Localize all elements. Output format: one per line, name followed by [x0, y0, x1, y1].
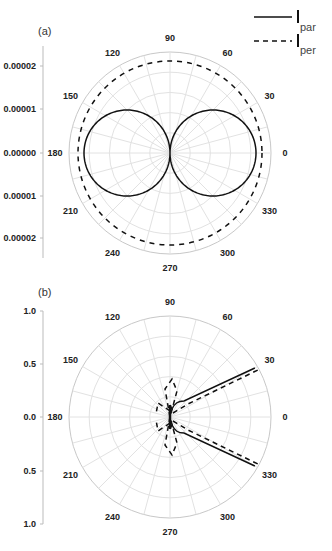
angle-tick-60: 60 — [222, 312, 232, 322]
polar-chart-b: (b) 1.00.50.00.51.0 03060901201501802102… — [23, 286, 287, 537]
radial-axis-b: 1.00.50.00.51.0 — [23, 306, 43, 529]
angle-tick-150: 150 — [63, 355, 78, 365]
legend-label-per: per — [300, 44, 316, 56]
radial-tick-label: 0.00001 — [3, 104, 36, 114]
angle-tick-30: 30 — [265, 91, 275, 101]
radial-tick-label: 1.0 — [23, 306, 36, 316]
radial-tick-label: 0.00000 — [3, 148, 36, 158]
angle-tick-270: 270 — [162, 263, 177, 273]
angle-tick-30: 30 — [265, 355, 275, 365]
angle-tick-180: 180 — [47, 412, 62, 422]
radial-tick-label: 0.5 — [23, 466, 36, 476]
legend: par per — [254, 10, 316, 56]
polar-figure: par per (a) 0.000020.000010.000000.00001… — [0, 0, 332, 551]
angle-tick-240: 240 — [105, 248, 120, 258]
radial-tick-label: 0.00002 — [3, 61, 36, 71]
angle-tick-270: 270 — [162, 527, 177, 537]
angle-tick-60: 60 — [222, 48, 232, 58]
polar-chart-a: (a) 0.000020.000010.000000.000010.00002 … — [3, 25, 287, 273]
radial-axis-a: 0.000020.000010.000000.000010.00002 — [3, 46, 43, 258]
radial-tick-label: 1.0 — [23, 519, 36, 529]
angle-tick-180: 180 — [47, 148, 62, 158]
angle-tick-0: 0 — [282, 148, 287, 158]
legend-label-par: par — [300, 21, 316, 33]
radial-tick-label: 0.0 — [23, 412, 36, 422]
angle-tick-0: 0 — [282, 412, 287, 422]
angle-tick-300: 300 — [220, 248, 235, 258]
angle-tick-120: 120 — [105, 312, 120, 322]
angle-tick-210: 210 — [63, 470, 78, 480]
angle-tick-330: 330 — [262, 206, 277, 216]
angle-tick-330: 330 — [262, 470, 277, 480]
angle-tick-240: 240 — [105, 512, 120, 522]
angle-tick-90: 90 — [165, 33, 175, 43]
panel-label-a: (a) — [38, 25, 51, 37]
angle-tick-90: 90 — [165, 297, 175, 307]
angle-tick-120: 120 — [105, 48, 120, 58]
radial-tick-label: 0.5 — [23, 359, 36, 369]
angle-tick-300: 300 — [220, 512, 235, 522]
radial-tick-label: 0.00002 — [3, 233, 36, 243]
panel-label-b: (b) — [38, 286, 51, 298]
angle-tick-210: 210 — [63, 206, 78, 216]
radial-tick-label: 0.00001 — [3, 191, 36, 201]
angle-tick-150: 150 — [63, 91, 78, 101]
